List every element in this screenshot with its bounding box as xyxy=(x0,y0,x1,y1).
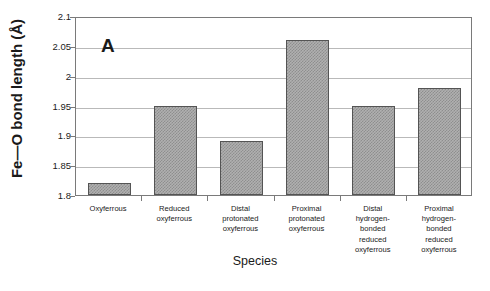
x-axis-category-label: Distal hydrogen- bonded reduced oxyferro… xyxy=(340,204,406,255)
y-axis-title: Fe—O bond length (Å) xyxy=(8,0,25,199)
gridline xyxy=(76,167,471,168)
y-axis-tick-mark xyxy=(70,77,75,78)
y-axis-tick-mark xyxy=(70,47,75,48)
gridline xyxy=(76,78,471,79)
bar xyxy=(418,88,461,195)
x-axis-category-label: Proximal hydrogen- bonded reduced oxyfer… xyxy=(406,204,472,255)
x-axis-tick-mark xyxy=(207,196,208,201)
y-axis-tick-label: 2.05 xyxy=(53,42,72,52)
y-axis-tick-mark xyxy=(70,196,75,197)
y-axis-tick-mark xyxy=(70,136,75,137)
bar xyxy=(220,141,263,195)
panel-label-a: A xyxy=(101,36,115,55)
bar-chart-figure: Fe—O bond length (Å) A Species 1.81.851.… xyxy=(0,0,490,291)
x-axis-category-label: Distal protonated oxyferrous xyxy=(207,204,273,235)
plot-area xyxy=(75,17,472,196)
y-axis-tick-mark xyxy=(70,17,75,18)
bar xyxy=(88,183,131,195)
y-axis-tick-label: 1.85 xyxy=(53,161,72,171)
x-axis-category-label: Reduced oxyferrous xyxy=(141,204,207,224)
y-axis-tick-mark xyxy=(70,107,75,108)
bar xyxy=(352,106,395,196)
x-axis-category-label: Proximal protonated oxyferrous xyxy=(274,204,340,235)
x-axis-title: Species xyxy=(205,254,305,268)
x-axis-tick-mark xyxy=(141,196,142,201)
x-axis-category-label: Oxyferrous xyxy=(75,204,141,214)
gridline xyxy=(76,48,471,49)
bar xyxy=(154,106,197,196)
x-axis-tick-mark xyxy=(340,196,341,201)
y-axis-tick-mark xyxy=(70,166,75,167)
x-axis-tick-mark xyxy=(406,196,407,201)
gridline xyxy=(76,108,471,109)
x-axis-tick-mark xyxy=(274,196,275,201)
bar xyxy=(286,40,329,195)
gridline xyxy=(76,137,471,138)
y-axis-tick-label: 1.95 xyxy=(53,102,72,112)
